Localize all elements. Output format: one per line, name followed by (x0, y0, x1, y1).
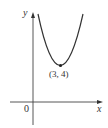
parabola-figure: y x 0 (3, 4) (0, 0, 108, 128)
y-axis-label: y (23, 8, 27, 18)
parabola-curve (38, 14, 83, 66)
origin-label: 0 (24, 104, 29, 114)
vertex-point (59, 64, 62, 67)
vertex-annotation: (3, 4) (49, 70, 69, 79)
y-axis-arrow-icon (31, 12, 35, 18)
plot-area (0, 0, 108, 128)
x-axis-label: x (97, 104, 101, 114)
